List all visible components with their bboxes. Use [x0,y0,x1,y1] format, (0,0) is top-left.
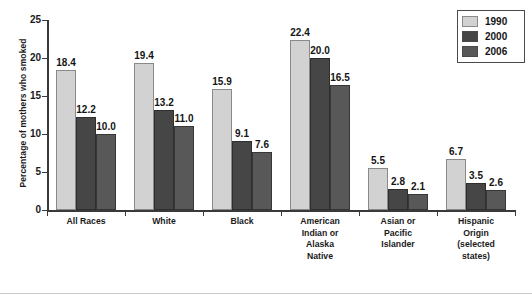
x-axis-category-label-line: Asian or [359,216,437,228]
bar [486,190,506,210]
x-axis-category-label: Black [203,216,281,228]
bar-value-label: 15.9 [212,77,231,87]
bar-value-label: 19.4 [134,51,153,61]
bar [252,152,272,210]
bar [232,141,252,210]
bar [96,134,116,210]
legend-label: 2000 [485,32,507,42]
bar-value-label: 2.6 [489,178,503,188]
bar-value-label: 2.1 [411,182,425,192]
x-axis-category-label: HispanicOrigin(selectedstates) [437,216,515,262]
x-axis-category-label-line: Islander [359,239,437,251]
bar-value-label: 2.8 [391,177,405,187]
bar [134,63,154,210]
x-axis-category-label-line: Pacific [359,228,437,240]
bar-value-label: 6.7 [449,147,463,157]
x-axis-category-label-line: Alaska [281,239,359,251]
bar [76,117,96,210]
legend: 199020002006 [457,10,525,63]
x-axis-category-label: All Races [47,216,125,228]
y-tick-label: 0 [15,205,41,215]
bar [290,40,310,210]
x-axis-category-label-line: states) [437,251,515,263]
legend-item: 1990 [462,14,520,29]
y-tick-label: 15 [15,91,41,101]
y-tick-label: 20 [15,53,41,63]
bar [330,85,350,210]
bar-value-label: 16.5 [330,73,349,83]
bar-group: 5.52.82.1 [359,20,437,210]
legend-label: 2006 [485,47,507,57]
bar-chart: Percentage of mothers who smoked 0510152… [0,0,532,294]
bar-value-label: 9.1 [235,129,249,139]
bar-value-label: 11.0 [175,114,194,124]
x-axis-category-label-line: All Races [47,216,125,228]
x-axis-category-label-line: Indian or [281,228,359,240]
bar-group: 19.413.211.0 [125,20,203,210]
bar [388,189,408,210]
y-tick-label: 5 [15,167,41,177]
x-axis-category-label-line: White [125,216,203,228]
x-axis-category-label-line: (selected [437,239,515,251]
bar [310,58,330,210]
bar-group: 18.412.210.0 [47,20,125,210]
bar-value-label: 12.2 [76,105,95,115]
legend-swatch [462,46,478,57]
bar [408,194,428,210]
x-axis-category-label-line: Hispanic [437,216,515,228]
legend-item: 2006 [462,44,520,59]
bar-group: 22.420.016.5 [281,20,359,210]
x-axis-category-label-line: American [281,216,359,228]
x-axis-category-label: White [125,216,203,228]
legend-swatch [462,31,478,42]
x-axis-category-label-line: Native [281,251,359,263]
y-tick-label: 25 [15,15,41,25]
x-axis-category-label: Asian orPacificIslander [359,216,437,251]
bar-value-label: 3.5 [469,171,483,181]
bar-value-label: 7.6 [255,140,269,150]
bar-value-label: 22.4 [290,28,309,38]
x-axis-category-label: AmericanIndian orAlaskaNative [281,216,359,262]
bar [174,126,194,210]
bar [466,183,486,210]
x-tick [515,210,516,216]
x-axis-category-label-line: Black [203,216,281,228]
bar-value-label: 5.5 [371,156,385,166]
bar [446,159,466,210]
bar [368,168,388,210]
bar-value-label: 13.2 [154,98,173,108]
y-tick-label: 10 [15,129,41,139]
plot-area: 0510152025 18.412.210.0All Races19.413.2… [47,20,515,210]
bar-value-label: 20.0 [310,46,329,56]
bar-value-label: 10.0 [96,122,115,132]
bar [56,70,76,210]
legend-label: 1990 [485,17,507,27]
legend-swatch [462,16,478,27]
bar [154,110,174,210]
bar [212,89,232,210]
bar-group: 15.99.17.6 [203,20,281,210]
legend-item: 2000 [462,29,520,44]
x-axis-category-label-line: Origin [437,228,515,240]
bar-value-label: 18.4 [56,58,75,68]
